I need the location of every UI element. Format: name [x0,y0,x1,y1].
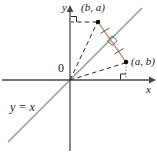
dashed-origin-to-point-ba [70,23,97,80]
y-axis-label: y [62,2,67,13]
point-ab-marker [124,60,129,65]
y-axis-arrow-icon [67,5,74,12]
point-ba-marker [96,20,101,25]
x-axis-label: x [146,84,151,95]
point-ab-label: (a, b) [131,56,155,67]
line-y-equals-x [8,8,142,142]
point-ba-label: (b, a) [81,2,105,13]
origin-label: 0 [58,62,64,74]
figure-canvas [0,0,157,153]
right-angle-mark-x-axis-icon [121,74,127,80]
right-angle-mark-y-axis-icon [71,17,77,23]
coordinate-plane-figure: y x 0 (b, a) (a, b) y = x [0,0,157,153]
line-equation-label: y = x [10,101,35,113]
